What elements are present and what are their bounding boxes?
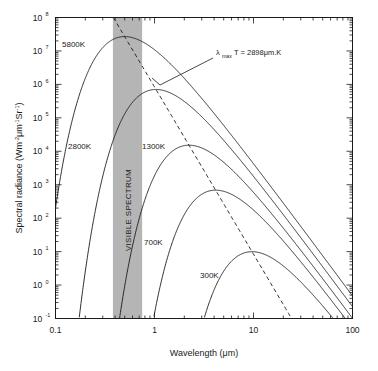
- y-tick-exponent: 3: [46, 178, 49, 184]
- y-tick-mantissa: 10: [33, 113, 43, 123]
- y-tick-mantissa: 10: [33, 46, 43, 56]
- y-tick-mantissa: 10: [33, 79, 43, 89]
- chart-background: [0, 0, 378, 371]
- y-title-part-main: Spectral radiance (Wm: [14, 142, 24, 234]
- visible-spectrum-band-fill: [113, 18, 142, 319]
- x-tick-label: 100: [345, 325, 359, 335]
- y-tick-exponent: 2: [46, 212, 49, 218]
- y-tick-mantissa: 10: [33, 13, 43, 23]
- wien-annotation-subscript: max: [222, 53, 232, 59]
- visible-spectrum-band: [113, 18, 142, 319]
- y-tick-exponent: 8: [46, 11, 49, 17]
- y-tick-exponent: -1: [46, 312, 51, 318]
- curve-label-5800K: 5800K: [62, 40, 86, 49]
- x-axis-title: Wavelength (μm): [170, 348, 238, 358]
- wien-annotation-lambda: λ: [216, 48, 220, 57]
- wien-annotation-equation: T = 2898μm.K: [234, 48, 281, 57]
- y-tick-mantissa: 10: [33, 180, 43, 190]
- y-tick-mantissa: 10: [33, 213, 43, 223]
- y-tick-exponent: 6: [46, 78, 49, 84]
- x-tick-label: 10: [249, 325, 259, 335]
- visible-spectrum-label: VISIBLE SPECTRUM: [124, 169, 133, 251]
- y-tick-exponent: 5: [46, 111, 49, 117]
- curve-label-1300K: 1300K: [142, 142, 166, 151]
- y-tick-exponent: 1: [46, 245, 49, 251]
- y-tick-exponent: 0: [46, 279, 49, 285]
- y-tick-exponent: 4: [46, 145, 49, 151]
- y-tick-mantissa: 10: [33, 314, 43, 324]
- y-title-part-end: ): [14, 103, 24, 106]
- x-tick-label: 0.1: [50, 325, 62, 335]
- y-tick-mantissa: 10: [33, 146, 43, 156]
- blackbody-spectral-radiance-chart: 0.1110100 10-110010110210310410510610710…: [0, 0, 378, 371]
- x-tick-label: 1: [152, 325, 157, 335]
- y-tick-exponent: 7: [46, 44, 49, 50]
- curve-label-2800K: 2800K: [68, 142, 92, 151]
- y-tick-mantissa: 10: [33, 247, 43, 257]
- curve-label-700K: 700K: [144, 238, 163, 247]
- curve-label-300K: 300K: [200, 271, 219, 280]
- y-title-part-mid: μm: [14, 124, 24, 137]
- y-title-part-mid2: Sr: [14, 110, 24, 119]
- chart-canvas: 0.1110100 10-110010110210310410510610710…: [0, 0, 378, 371]
- y-tick-mantissa: 10: [33, 280, 43, 290]
